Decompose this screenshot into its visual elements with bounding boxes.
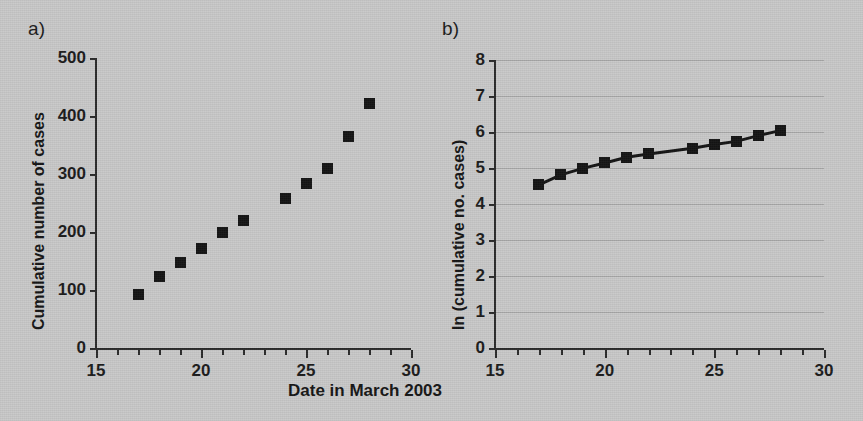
- data-point-marker: [196, 243, 207, 254]
- data-point-marker: [643, 148, 654, 159]
- x-tick-label: 30: [386, 361, 436, 381]
- y-tick-label: 0: [34, 338, 86, 358]
- x-tick-minor: [138, 350, 140, 355]
- data-point-marker: [577, 163, 588, 174]
- x-tick-major: [201, 350, 203, 358]
- x-tick-label: 25: [281, 361, 331, 381]
- data-point-marker: [731, 136, 742, 147]
- x-tick-label: 15: [71, 361, 121, 381]
- x-tick-minor: [180, 350, 182, 355]
- data-point-marker: [775, 125, 786, 136]
- data-point-marker: [599, 157, 610, 168]
- data-point-marker: [621, 152, 632, 163]
- x-tick-minor: [243, 350, 245, 355]
- panel-b: b) 012345678 15202530 ln (cumulative no.…: [430, 0, 863, 421]
- y-tick: [90, 116, 97, 118]
- x-tick-minor: [348, 350, 350, 355]
- x-tick-minor: [285, 350, 287, 355]
- data-point-marker: [364, 98, 375, 109]
- data-point-marker: [280, 193, 291, 204]
- data-point-marker: [238, 215, 249, 226]
- trend-line-b: [430, 0, 863, 421]
- data-point-marker: [555, 169, 566, 180]
- y-tick-label: 500: [34, 48, 86, 68]
- plot-area-b: 012345678 15202530: [430, 0, 863, 421]
- data-point-marker: [217, 227, 228, 238]
- series-line: [539, 131, 780, 185]
- data-point-marker: [343, 131, 354, 142]
- x-tick-major: [306, 350, 308, 358]
- y-tick: [90, 290, 97, 292]
- x-tick-minor: [222, 350, 224, 355]
- y-axis-line-a: [95, 58, 97, 350]
- data-point-marker: [753, 130, 764, 141]
- x-tick-major: [96, 350, 98, 358]
- x-tick-minor: [390, 350, 392, 355]
- y-axis-title-a: Cumulative number of cases: [30, 112, 48, 330]
- figure-root: a) 0100200300400500 15202530 Cumulative …: [0, 0, 863, 421]
- data-point-marker: [133, 289, 144, 300]
- plot-area-a: 0100200300400500 15202530: [0, 0, 440, 421]
- data-point-marker: [154, 271, 165, 282]
- x-tick-major: [411, 350, 413, 358]
- x-tick-minor: [327, 350, 329, 355]
- x-tick-minor: [117, 350, 119, 355]
- y-tick: [90, 174, 97, 176]
- data-point-marker: [301, 178, 312, 189]
- x-axis-line-a: [95, 348, 411, 350]
- x-tick-minor: [369, 350, 371, 355]
- y-tick: [90, 232, 97, 234]
- x-tick-label: 20: [176, 361, 226, 381]
- x-tick-minor: [159, 350, 161, 355]
- data-point-marker: [322, 163, 333, 174]
- x-axis-title: Date in March 2003: [288, 381, 442, 401]
- y-tick: [90, 58, 97, 60]
- data-point-marker: [709, 139, 720, 150]
- data-point-marker: [533, 179, 544, 190]
- panel-a: a) 0100200300400500 15202530 Cumulative …: [0, 0, 440, 421]
- y-axis-title-b: ln (cumulative no. cases): [450, 140, 468, 330]
- x-tick-minor: [264, 350, 266, 355]
- data-point-marker: [687, 143, 698, 154]
- data-point-marker: [175, 257, 186, 268]
